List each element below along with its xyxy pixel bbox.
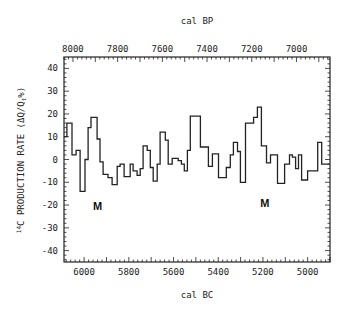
- y-tick-label: -40: [42, 246, 58, 256]
- x2-tick-label: 7800: [107, 44, 129, 54]
- y-tick-label: 20: [47, 109, 58, 119]
- x-tick-label: 5800: [118, 267, 140, 277]
- y-tick-label: -30: [42, 223, 58, 233]
- x-tick-label: 5000: [297, 267, 319, 277]
- bottom-axis-title: cal BC: [181, 290, 214, 300]
- x-tick-label: 5600: [163, 267, 185, 277]
- bottom-axis-tick-labels: 600058005600540052005000: [73, 267, 318, 277]
- x2-tick-label: 7400: [196, 44, 218, 54]
- maunder-minimum-label: M: [93, 200, 102, 212]
- y-tick-label: 40: [47, 63, 58, 73]
- maunder-minimum-label: M: [260, 197, 269, 209]
- maunder-annotations: MM: [93, 197, 269, 211]
- top-axis-title: cal BP: [181, 16, 214, 26]
- y-tick-label: -20: [42, 200, 58, 210]
- x-tick-label: 5200: [252, 267, 274, 277]
- x-tick-label: 6000: [73, 267, 95, 277]
- y-tick-label: 30: [47, 86, 58, 96]
- x2-tick-label: 7600: [152, 44, 174, 54]
- y-tick-label: 10: [47, 132, 58, 142]
- x2-tick-label: 7200: [241, 44, 263, 54]
- production-rate-chart: 800078007600740072007000 600058005600540…: [0, 0, 346, 312]
- x-tick-label: 5400: [207, 267, 229, 277]
- y-axis-tick-labels: 403020100-10-20-30-40: [42, 63, 58, 255]
- x2-tick-label: 8000: [62, 44, 84, 54]
- y-axis-title: 14C PRODUCTION RATE (ΔQ/Qt%): [15, 87, 27, 233]
- x2-tick-label: 7000: [286, 44, 308, 54]
- top-axis-tick-labels: 800078007600740072007000: [62, 44, 307, 54]
- y-tick-label: -10: [42, 177, 58, 187]
- production-rate-step-line: [64, 107, 330, 191]
- y-tick-label: 0: [53, 155, 58, 165]
